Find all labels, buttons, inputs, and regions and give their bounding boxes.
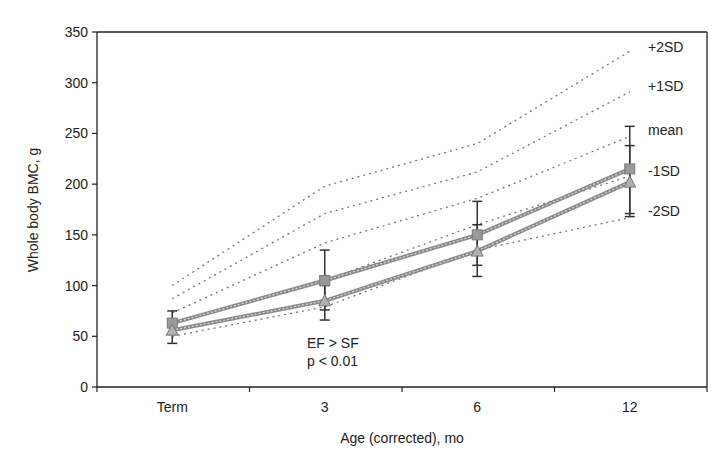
reference-label: -1SD — [648, 163, 680, 179]
x-tick-label: 6 — [473, 399, 481, 415]
x-tick-label: 12 — [622, 399, 638, 415]
x-axis-title: Age (corrected), mo — [340, 430, 464, 446]
x-tick-label: 3 — [321, 399, 329, 415]
y-tick-label: 100 — [65, 278, 89, 294]
x-tick-label: Term — [157, 399, 188, 415]
marker-triangle — [624, 176, 636, 187]
series-line-texture — [172, 169, 630, 323]
reference-label: +2SD — [648, 39, 683, 55]
y-tick-label: 50 — [72, 328, 88, 344]
reference-label: mean — [648, 122, 683, 138]
reference-line-mean — [172, 136, 630, 312]
bmc-chart: 050100150200250300350Term3612+2SD+1SDmea… — [0, 0, 727, 467]
y-tick-label: 250 — [65, 125, 89, 141]
reference-label: +1SD — [648, 78, 683, 94]
y-tick-label: 200 — [65, 176, 89, 192]
reference-line-plus2SD — [172, 51, 630, 285]
series-line-EF — [172, 169, 630, 323]
y-tick-label: 0 — [80, 379, 88, 395]
y-tick-label: 350 — [65, 24, 89, 40]
y-axis-title: Whole body BMC, g — [25, 148, 41, 273]
reference-line-plus1SD — [172, 92, 630, 299]
plot-area: 050100150200250300350Term3612+2SD+1SDmea… — [65, 24, 707, 415]
marker-square — [320, 276, 330, 286]
annotation-ef-sf: EF > SF — [307, 335, 359, 351]
y-tick-label: 300 — [65, 75, 89, 91]
y-tick-label: 150 — [65, 227, 89, 243]
reference-label: -2SD — [648, 203, 680, 219]
annotation-p-value: p < 0.01 — [307, 353, 358, 369]
marker-square — [472, 230, 482, 240]
marker-square — [625, 164, 635, 174]
